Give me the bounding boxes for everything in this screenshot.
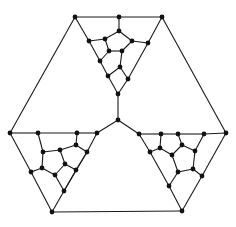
graph-node — [148, 150, 153, 155]
graph-edge — [169, 172, 178, 186]
graph-node — [29, 170, 34, 175]
graph-node — [103, 37, 108, 42]
graph-node — [117, 15, 122, 20]
graph-edge — [162, 17, 226, 133]
graph-node — [41, 150, 46, 155]
graph-node — [159, 132, 164, 137]
graph-edge — [31, 172, 52, 212]
graph-edge — [89, 41, 100, 61]
graph-node — [176, 132, 181, 137]
graph-edge — [38, 133, 43, 152]
graph-node — [191, 167, 196, 172]
graph-edge — [10, 17, 75, 133]
graph-edge — [139, 134, 150, 152]
graph-edge — [76, 152, 87, 170]
graph-node — [193, 149, 198, 154]
graph-edge — [202, 133, 226, 176]
graph-node — [74, 143, 79, 148]
graph-node — [146, 41, 151, 46]
graph-node — [87, 39, 92, 44]
graph-node — [85, 150, 90, 155]
graph-diagram — [0, 0, 236, 227]
graph-node — [95, 131, 100, 136]
graph-edge — [118, 79, 128, 94]
graph-edge — [10, 133, 31, 172]
graph-node — [50, 210, 55, 215]
graph-edge — [89, 39, 105, 41]
graph-node — [75, 131, 80, 136]
graph-edge — [118, 120, 139, 134]
graph-edge — [52, 191, 64, 212]
graph-node — [158, 146, 163, 151]
graph-node — [63, 162, 68, 167]
graph-node — [117, 29, 122, 34]
graph-node — [116, 118, 121, 123]
graph-edge — [75, 17, 89, 41]
graph-node — [176, 170, 181, 175]
graph-node — [118, 65, 123, 70]
graph-node — [98, 59, 103, 64]
graph-edge — [42, 152, 43, 168]
graph-edge — [52, 211, 182, 212]
graph-edge — [100, 61, 108, 76]
graph-edge — [193, 151, 195, 169]
graph-node — [58, 148, 63, 153]
graph-edge — [150, 152, 169, 186]
graph-edge — [64, 170, 76, 191]
graph-node — [224, 131, 229, 136]
graph-node — [62, 189, 67, 194]
graph-node — [116, 92, 121, 97]
graph-edge — [87, 133, 97, 152]
graph-node — [137, 132, 142, 137]
graph-edge — [120, 51, 122, 67]
graph-edge — [60, 145, 76, 150]
graph-edge — [195, 134, 204, 151]
graph-node — [180, 143, 185, 148]
graph-edge — [148, 17, 162, 43]
graph-node — [40, 166, 45, 171]
graph-node — [53, 173, 58, 178]
graph-node — [130, 39, 135, 44]
graph-edge — [172, 155, 178, 172]
graph-edge — [204, 133, 226, 134]
graph-edge — [55, 175, 64, 191]
graph-edges — [10, 17, 226, 212]
graph-node — [120, 49, 125, 54]
graph-edge — [108, 76, 118, 94]
graph-node — [202, 132, 207, 137]
graph-node — [107, 49, 112, 54]
graph-node — [170, 153, 175, 158]
graph-node — [73, 15, 78, 20]
graph-edge — [182, 176, 202, 211]
graph-node — [167, 184, 172, 189]
graph-edge — [105, 31, 119, 39]
graph-node — [36, 131, 41, 136]
graph-node — [180, 209, 185, 214]
graph-edge — [119, 31, 132, 41]
graph-node — [200, 174, 205, 179]
graph-edge — [132, 41, 148, 43]
graph-node — [8, 131, 13, 136]
graph-edge — [169, 186, 182, 211]
graph-edge — [128, 43, 148, 79]
graph-node — [74, 168, 79, 173]
graph-node — [160, 15, 165, 20]
graph-node — [126, 77, 131, 82]
graph-node — [106, 74, 111, 79]
graph-edge — [43, 150, 60, 152]
graph-edge — [97, 120, 118, 133]
